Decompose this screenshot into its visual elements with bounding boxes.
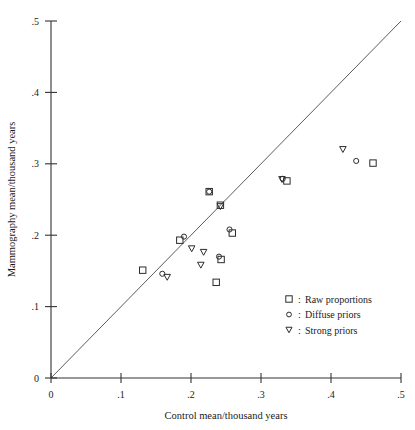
legend-label-square: Raw proportions [305, 294, 372, 305]
point-1-2 [207, 189, 212, 194]
series-raw-proportions [140, 160, 377, 286]
series-diffuse-priors [160, 158, 359, 276]
point-0-8 [370, 160, 376, 166]
legend-marker-square [286, 296, 292, 302]
scatter-plot-figure: 0.1.2.3.4.5 0.1.2.3.4.5 :Raw proportions… [0, 0, 415, 430]
x-axis-title: Control mean/thousand years [164, 410, 287, 421]
legend-marker-triangle-down [286, 327, 292, 333]
point-0-0 [140, 267, 146, 273]
legend-marker-circle [287, 312, 292, 317]
y-tick-label-5: .5 [32, 16, 40, 27]
point-2-3 [198, 262, 205, 268]
y-tick-label-2: .2 [32, 230, 40, 241]
legend-label-circle: Diffuse priors [305, 309, 361, 320]
point-2-1 [188, 246, 195, 252]
y-tick-label-4: .4 [32, 87, 40, 98]
y-axis-title: Mammography mean/thousand years [6, 122, 17, 278]
x-tick-label-1: .1 [117, 389, 125, 400]
point-2-2 [200, 249, 207, 255]
legend-separator-1: : [298, 309, 301, 320]
x-tick-label-3: .3 [257, 389, 265, 400]
x-tick-label-2: .2 [187, 389, 195, 400]
y-axis-ticks: 0.1.2.3.4.5 [32, 16, 58, 384]
point-2-0 [164, 274, 171, 280]
y-tick-label-0: 0 [34, 373, 39, 384]
plot-legend: :Raw proportions:Diffuse priors:Strong p… [286, 294, 372, 336]
point-0-6 [229, 230, 235, 236]
y-tick-label-1: .1 [32, 301, 40, 312]
y-tick-label-3: .3 [32, 158, 40, 169]
x-tick-label-4: .4 [327, 389, 335, 400]
x-axis-ticks: 0.1.2.3.4.5 [49, 373, 405, 400]
legend-label-triangle-down: Strong priors [305, 325, 358, 336]
point-2-6 [340, 147, 347, 153]
series-strong-priors [164, 147, 346, 281]
plot-canvas: 0.1.2.3.4.5 0.1.2.3.4.5 :Raw proportions… [0, 0, 415, 430]
point-2-5 [279, 177, 286, 183]
x-tick-label-5: .5 [397, 389, 405, 400]
point-0-4 [213, 279, 219, 285]
legend-separator-0: : [298, 294, 301, 305]
x-tick-label-0: 0 [49, 389, 54, 400]
legend-separator-2: : [298, 325, 301, 336]
point-1-6 [354, 158, 359, 163]
